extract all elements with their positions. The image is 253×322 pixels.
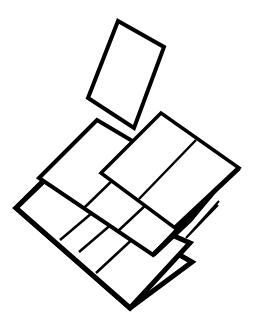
floating-card	[88, 21, 164, 128]
stacked-tiles-icon	[0, 0, 253, 322]
stacked-tiles-illustration	[0, 0, 253, 322]
